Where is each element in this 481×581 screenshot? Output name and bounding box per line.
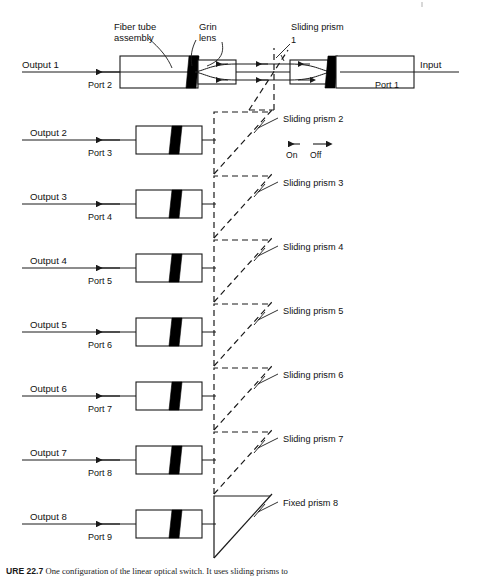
caption-text: One configuration of the linear optical … <box>45 566 288 576</box>
caption-number: URE 22.7 <box>6 566 43 576</box>
row-1-group: Output 1 Port 2 Input Port 1 Fiber tube … <box>22 21 459 110</box>
row-4-output-label: Output 4 <box>30 255 67 266</box>
row-4-prism-leader <box>258 246 278 256</box>
row-1-right-port-label: Port 1 <box>375 80 399 90</box>
row-3-prism-leader-tick <box>254 184 265 197</box>
row-7-prism-leader-tick <box>254 440 265 453</box>
row-6-prism-leader-tick <box>254 376 265 389</box>
row-3-prism-hypotenuse <box>214 174 272 238</box>
row-8-prism-label: Fixed prism 8 <box>283 498 338 508</box>
row-3-prism-leader <box>258 182 278 192</box>
row-3-fiber-tube <box>136 190 202 218</box>
row-6-port-label: Port 7 <box>88 404 112 414</box>
row-2-prism-hypotenuse <box>214 110 272 174</box>
row-5-prism-leader-tick <box>254 312 265 325</box>
row-8-fiber-tube <box>136 510 202 538</box>
row-4-port-label: Port 5 <box>88 276 112 286</box>
optical-switch-figure: Output 1 Port 2 Input Port 1 Fiber tube … <box>0 0 481 581</box>
row-4-group: Output 4 Port 5 Sliding prism 4 <box>22 238 343 302</box>
row-3-group: Output 3 Port 4 Sliding prism 3 <box>22 174 343 238</box>
row-8-group: Output 8 Port 9 Fixed prism 8 <box>22 494 338 558</box>
grin-lens-label-line2: lens <box>199 32 217 43</box>
row-8-prism-leader-tick <box>254 504 265 517</box>
row-7-fiber-tube <box>136 446 202 474</box>
row-5-prism-label: Sliding prism 5 <box>283 306 343 316</box>
row-7-prism-label: Sliding prism 7 <box>283 434 343 444</box>
row-1-output-label: Output 1 <box>22 59 59 70</box>
row-5-port-label: Port 6 <box>88 340 112 350</box>
row-6-prism-leader <box>258 374 278 384</box>
figure-caption: URE 22.7 One configuration of the linear… <box>6 566 476 577</box>
on-label: On <box>286 150 298 160</box>
row-7-prism-leader <box>258 438 278 448</box>
row-2-port-label: Port 3 <box>88 148 112 158</box>
row-1-port-label: Port 2 <box>88 80 112 90</box>
row-2-prism-label: Sliding prism 2 <box>283 114 343 124</box>
row-7-output-label: Output 7 <box>30 447 67 458</box>
scan-artifact <box>421 2 423 7</box>
row-3-port-label: Port 4 <box>88 212 112 222</box>
row-5-output-label: Output 5 <box>30 319 67 330</box>
fiber-tube-label-line2: assembly <box>114 32 154 43</box>
row-1-prism-label: Sliding prism <box>291 22 344 32</box>
row-7-port-label: Port 8 <box>88 468 112 478</box>
row-4-prism-hypotenuse <box>214 238 272 302</box>
row-4-prism-label: Sliding prism 4 <box>283 242 343 252</box>
row-7-prism-hypotenuse <box>214 430 272 494</box>
row-1-input-label: Input <box>420 59 442 70</box>
row-2-prism-leader <box>258 118 278 128</box>
row-8-prism-hypotenuse <box>214 494 272 558</box>
row-4-fiber-tube <box>136 254 202 282</box>
row-8-port-label: Port 9 <box>88 532 112 542</box>
row-6-prism-hypotenuse <box>214 366 272 430</box>
row-2-output-label: Output 2 <box>30 127 67 138</box>
row-6-group: Output 6 Port 7 Sliding prism 6 <box>22 366 343 430</box>
row-2-group: Output 2 Port 3 Sliding prism 2 On Off <box>22 110 343 174</box>
row-5-prism-hypotenuse <box>214 302 272 366</box>
row-1-prism-number: 1 <box>291 35 296 45</box>
row-2-fiber-tube <box>136 126 202 154</box>
off-label: Off <box>310 150 322 160</box>
row-6-output-label: Output 6 <box>30 383 67 394</box>
row-4-prism-leader-tick <box>254 248 265 261</box>
row-5-fiber-tube <box>136 318 202 346</box>
row-3-prism-label: Sliding prism 3 <box>283 178 343 188</box>
row-7-group: Output 7 Port 8 Sliding prism 7 <box>22 430 343 494</box>
row-3-output-label: Output 3 <box>30 191 67 202</box>
row-8-output-label: Output 8 <box>30 511 67 522</box>
fiber-tube-label-line1: Fiber tube <box>114 21 156 32</box>
row-6-prism-label: Sliding prism 6 <box>283 370 343 380</box>
row-6-fiber-tube <box>136 382 202 410</box>
figure-canvas: Output 1 Port 2 Input Port 1 Fiber tube … <box>0 0 481 581</box>
row-5-group: Output 5 Port 6 Sliding prism 5 <box>22 302 343 366</box>
grin-lens-label-line1: Grin <box>199 21 217 32</box>
row-5-prism-leader <box>258 310 278 320</box>
row-2-prism-leader-tick <box>254 120 265 133</box>
